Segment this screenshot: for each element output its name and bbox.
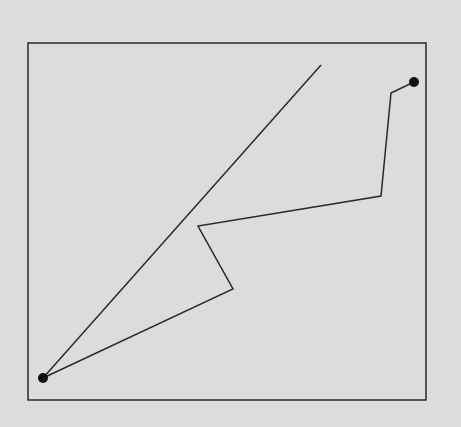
straight-line — [43, 65, 321, 378]
start-point-dot — [38, 373, 48, 383]
end-point-dot — [409, 77, 419, 87]
diagram-canvas — [0, 0, 461, 427]
zigzag-path — [43, 82, 414, 378]
